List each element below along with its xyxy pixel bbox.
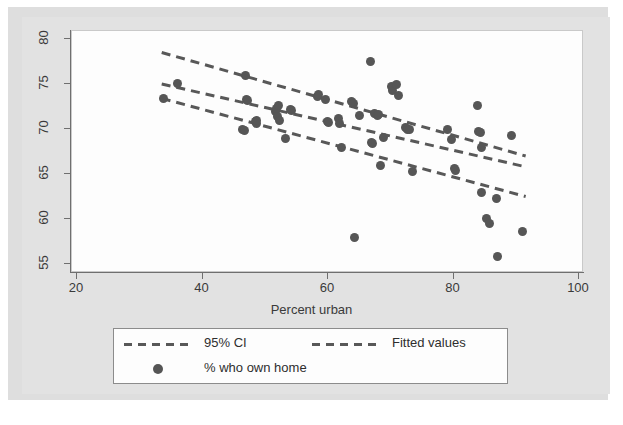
scatter-point: [477, 143, 486, 152]
scatter-point: [507, 131, 516, 140]
scatter-point: [376, 161, 385, 170]
x-axis-tick: [453, 273, 454, 279]
dashed-line-icon: [310, 333, 384, 355]
legend-item-percent-own-home[interactable]: % who own home: [122, 358, 352, 380]
legend-label-percent-own-home: % who own home: [204, 360, 307, 375]
x-axis-tick-label: 80: [433, 280, 473, 295]
y-axis-tick: [64, 173, 70, 174]
scatter-point: [241, 71, 250, 80]
scatter-point: [173, 79, 182, 88]
y-axis-tick: [64, 263, 70, 264]
x-axis-tick: [578, 273, 579, 279]
dashed-line-icon: [122, 333, 196, 355]
y-axis-tick-label: 75: [36, 68, 51, 98]
x-axis-tick-label: 60: [307, 280, 347, 295]
x-axis-tick: [202, 273, 203, 279]
plot-svg: [72, 31, 582, 271]
y-axis-tick-label: 70: [36, 113, 51, 143]
scatter-point: [379, 133, 388, 142]
scatter-point: [408, 167, 417, 176]
scatter-point: [335, 119, 344, 128]
scatter-point: [159, 94, 168, 103]
scatter-point: [374, 110, 383, 119]
y-axis-line: [70, 30, 71, 273]
scatter-point: [476, 128, 485, 137]
scatter-point: [477, 188, 486, 197]
trend-line: [162, 53, 526, 157]
y-axis-tick: [64, 38, 70, 39]
scatter-point: [349, 99, 358, 108]
y-axis-tick-label: 60: [36, 203, 51, 233]
chart-legend: 95% CI Fitted values % who own home: [113, 328, 508, 384]
trend-line: [162, 84, 526, 167]
x-axis-tick-label: 40: [182, 280, 222, 295]
scatter-point: [485, 219, 494, 228]
x-axis-tick-label: 20: [56, 280, 96, 295]
x-axis-tick: [76, 273, 77, 279]
legend-item-95-ci[interactable]: 95% CI: [122, 333, 302, 355]
plot-area: [71, 30, 583, 272]
scatter-point: [321, 95, 330, 104]
y-axis-tick: [64, 128, 70, 129]
scatter-point: [287, 106, 296, 115]
legend-label-95-ci: 95% CI: [204, 335, 247, 350]
y-axis-tick: [64, 218, 70, 219]
scatter-point: [451, 166, 460, 175]
scatter-point: [350, 233, 359, 242]
scatter-point: [394, 91, 403, 100]
dot-marker-icon: [122, 358, 196, 380]
scatter-point: [274, 101, 283, 110]
scatter-point: [252, 116, 261, 125]
legend-item-fitted-values[interactable]: Fitted values: [310, 333, 500, 355]
y-axis-tick-label: 80: [36, 23, 51, 53]
legend-label-fitted-values: Fitted values: [392, 335, 466, 350]
y-axis-tick-label: 55: [36, 248, 51, 278]
y-axis-tick-label: 65: [36, 158, 51, 188]
y-axis-tick: [64, 83, 70, 84]
x-axis-tick-label: 100: [558, 280, 598, 295]
scatter-point: [355, 111, 364, 120]
scatter-point: [243, 96, 252, 105]
x-axis-tick: [327, 273, 328, 279]
x-axis-title: Percent urban: [0, 302, 623, 317]
chart-figure: 556065707580 20406080100 Percent urban 9…: [0, 0, 623, 425]
scatter-point: [368, 139, 377, 148]
